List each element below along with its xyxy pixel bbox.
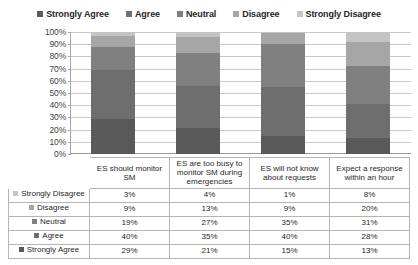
table-cell: 1% [250,188,330,202]
y-axis-tick-labels: 100%90%80%70%60%50%40%30%20%10%0% [30,28,68,154]
table-cell: 19% [90,216,170,230]
table-row-label: Strongly Agree [27,245,79,254]
table-cell: 35% [170,230,250,244]
legend-swatch-icon [177,11,183,17]
bar-column [91,32,135,154]
bar-segment [91,36,135,47]
legend-item: Disagree [233,9,279,19]
data-table-body: ES should monitor SMES are too busy to m… [9,158,410,259]
bar-segment [346,42,390,66]
table-cell: 29% [90,244,170,258]
table-cell: 28% [330,230,410,244]
table-cell: 31% [330,216,410,230]
y-axis-tickmark [68,154,71,155]
legend-item: Strongly Agree [37,9,109,19]
table-row-label: Strongly Disagree [21,189,85,198]
legend-label: Agree [135,9,160,19]
table-row-label-cell: Strongly Agree [9,244,90,258]
y-axis-tick-label: 50% [50,88,66,98]
table-row: Neutral19%27%35%31% [9,216,410,230]
y-axis-tick-label: 30% [50,112,66,122]
table-cell: 21% [170,244,250,258]
table-cell: 8% [330,188,410,202]
table-cell: 40% [90,230,170,244]
bar-segment [261,136,305,154]
bar-column [346,32,390,154]
plot-area: 100%90%80%70%60%50%40%30%20%10%0% [0,28,418,158]
table-corner-cell [9,158,90,189]
bar-segment [346,66,390,104]
series-swatch-icon [29,205,34,210]
table-column-header: Expect a response within an hour [330,158,410,189]
legend-swatch-icon [37,11,43,17]
table-row-label-cell: Disagree [9,202,90,216]
legend-swatch-icon [126,11,132,17]
bar-segment [261,44,305,87]
y-axis-tick-label: 80% [50,51,66,61]
bar-column [176,32,220,154]
y-axis-tick-label: 90% [50,39,66,49]
bar-segment [91,119,135,154]
table-cell: 9% [90,202,170,216]
table-row: Agree40%35%40%28% [9,230,410,244]
table-cell: 3% [90,188,170,202]
y-axis-tick-label: 20% [50,125,66,135]
series-swatch-icon [13,191,18,196]
table-row: Disagree9%13%9%20% [9,202,410,216]
table-cell: 27% [170,216,250,230]
bar-segment [346,32,390,42]
table-cell: 35% [250,216,330,230]
bar-segment [176,86,220,129]
y-axis-tick-label: 60% [50,76,66,86]
table-row-label: Disagree [37,203,69,212]
series-swatch-icon [19,247,24,252]
table-row-label-cell: Neutral [9,216,90,230]
table-row-label: Neutral [40,217,66,226]
table-row: Strongly Disagree3%4%1%8% [9,188,410,202]
legend-label: Disagree [242,9,279,19]
legend-swatch-icon [233,11,239,17]
table-cell: 9% [250,202,330,216]
bar-segment [261,33,305,44]
legend-label: Strongly Agree [46,9,109,19]
chart-legend: Strongly AgreeAgreeNeutralDisagreeStrong… [0,5,418,23]
bar-segment [346,104,390,138]
table-row-label-cell: Agree [9,230,90,244]
legend-swatch-icon [297,11,303,17]
stacked-bar-chart-figure: Strongly AgreeAgreeNeutralDisagreeStrong… [0,0,418,265]
series-swatch-icon [34,233,39,238]
table-column-header: ES are too busy to monitor SM during eme… [170,158,250,189]
bar-segment [176,128,220,154]
y-axis-tick-label: 100% [45,27,66,37]
table-cell: 13% [170,202,250,216]
table-cell: 20% [330,202,410,216]
data-table: ES should monitor SMES are too busy to m… [8,157,410,259]
legend-item: Neutral [177,9,216,19]
table-column-header: ES will not know about requests [250,158,330,189]
table-cell: 40% [250,230,330,244]
bar-segment [261,87,305,136]
table-cell: 13% [330,244,410,258]
table-column-header: ES should monitor SM [90,158,170,189]
y-axis-tick-label: 40% [50,100,66,110]
table-row-label-cell: Strongly Disagree [9,188,90,202]
bar-segment [91,70,135,119]
legend-label: Strongly Disagree [306,9,381,19]
bar-column [261,32,305,154]
y-axis-tick-label: 70% [50,64,66,74]
table-cell: 4% [170,188,250,202]
legend-label: Neutral [186,9,216,19]
bar-segment [346,138,390,154]
bar-segment [176,37,220,53]
bar-segment [91,47,135,70]
series-swatch-icon [32,219,37,224]
bar-series-container [70,32,410,154]
y-axis-tick-label: 10% [50,137,66,147]
table-cell: 15% [250,244,330,258]
table-row: Strongly Agree29%21%15%13% [9,244,410,258]
bar-segment [176,53,220,86]
legend-item: Strongly Disagree [297,9,381,19]
table-header-row: ES should monitor SMES are too busy to m… [9,158,410,189]
legend-item: Agree [126,9,160,19]
table-row-label: Agree [42,231,63,240]
